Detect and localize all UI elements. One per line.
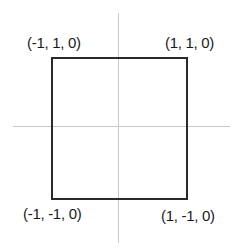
vertex-label-bottom-right: (1, -1, 0) bbox=[161, 207, 215, 224]
vertex-label-bottom-left: (-1, -1, 0) bbox=[23, 205, 81, 222]
vertex-label-top-left: (-1, 1, 0) bbox=[27, 34, 81, 51]
square-outline bbox=[51, 57, 188, 200]
vertex-label-top-right: (1, 1, 0) bbox=[165, 34, 214, 51]
